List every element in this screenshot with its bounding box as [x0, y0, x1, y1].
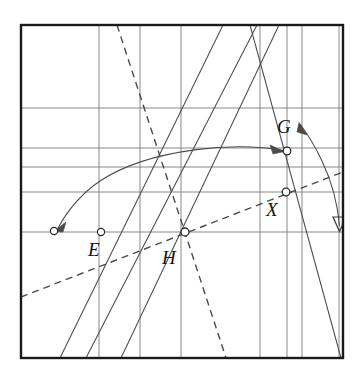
- point-label-H: H: [162, 248, 176, 267]
- point-marker-X[interactable]: [282, 188, 290, 196]
- point-label-G: G: [277, 117, 291, 136]
- geometry-construction-diagram: E H G X: [0, 0, 360, 373]
- point-label-X: X: [266, 200, 278, 219]
- point-marker-H[interactable]: [181, 228, 189, 236]
- diagram-canvas: [0, 0, 360, 373]
- point-marker-E[interactable]: [97, 228, 104, 235]
- point-label-E: E: [88, 240, 100, 259]
- point-marker-arrow-target[interactable]: [50, 227, 57, 234]
- point-marker-G[interactable]: [283, 147, 291, 155]
